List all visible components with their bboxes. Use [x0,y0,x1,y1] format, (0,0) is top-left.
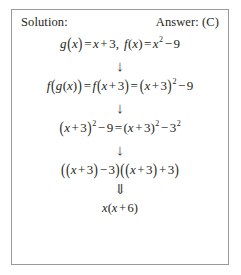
step-composition: f(g(x))=f(x+3)=(x+3)2−9 [16,79,224,94]
step-final-answer: x(x+6) [16,201,224,215]
step-difference-of-squares: (x+3)2−9=(x+3)2−32 [16,121,224,136]
arrow-down-2: ↓ [16,101,224,116]
arrow-double-down: ⇓ [16,183,224,197]
step-factored: ((x+3)−3)((x+3)+3) [16,163,224,178]
answer-label: Answer: (C) [156,16,219,30]
step-definitions: g(x)=x+3,f(x)=x2−9 [16,37,224,52]
solution-box: Solution: Answer: (C) g(x)=x+3,f(x)=x2−9… [11,9,229,265]
arrow-down-1: ↓ [16,59,224,74]
solution-header: Solution: Answer: (C) [12,10,228,30]
derivation-steps: g(x)=x+3,f(x)=x2−9 ↓ f(g(x))=f(x+3)=(x+3… [12,30,228,215]
arrow-down-3: ↓ [16,143,224,158]
solution-label: Solution: [21,16,68,30]
